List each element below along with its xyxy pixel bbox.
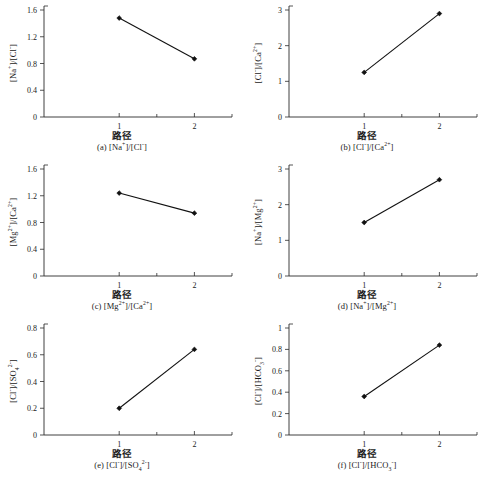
data-line-f: [364, 345, 439, 396]
plot-area-c: 00.40.81.21.612: [0, 159, 244, 299]
y-tick-label-a-0: 0: [33, 113, 37, 122]
y-tick-label-f-3: 0.6: [272, 367, 282, 376]
x-axis-label-c: 路径: [0, 287, 244, 301]
y-axis-label-wrap-e: [Cl-]/[SO42-]: [4, 326, 18, 436]
y-tick-label-f-2: 0.4: [272, 388, 282, 397]
data-point-a-0: [117, 16, 122, 21]
subplot-caption-e: (e) [Cl-]/[SO42-]: [0, 460, 244, 470]
data-point-c-1: [192, 211, 197, 216]
x-axis-label-f: 路径: [245, 446, 489, 460]
subplot-caption-c: (c) [Mg2+]/[Ca2+]: [0, 301, 244, 311]
subplot-c: 00.40.81.21.612[Mg2+]/[Ca2+]路径(c) [Mg2+]…: [0, 159, 244, 318]
y-axis-label-d: [Na+]/[Mg2+]: [251, 167, 265, 277]
y-tick-label-d-2: 2: [278, 201, 282, 210]
y-axis-label-e: [Cl-]/[SO42-]: [6, 326, 20, 436]
x-axis-label-a: 路径: [0, 128, 244, 142]
data-point-d-0: [362, 220, 367, 225]
subplot-caption-b: (b) [Cl-]/[Ca2+]: [245, 142, 489, 152]
y-tick-label-d-1: 1: [278, 236, 282, 245]
data-point-a-1: [192, 56, 197, 61]
y-tick-label-d-0: 0: [278, 272, 282, 281]
plot-area-e: 00.20.40.60.812: [0, 318, 244, 458]
y-axis-label-b: [Cl-]/[Ca2+]: [251, 8, 265, 118]
y-axis-label-wrap-c: [Mg2+]/[Ca2+]: [4, 167, 18, 277]
y-tick-label-c-3: 1.2: [27, 192, 37, 201]
y-tick-label-b-3: 3: [278, 6, 282, 15]
y-axis-label-wrap-b: [Cl-]/[Ca2+]: [249, 8, 263, 118]
y-tick-label-c-2: 0.8: [27, 219, 37, 228]
data-point-d-1: [437, 177, 442, 182]
subplot-caption-a: (a) [Na+]/[Cl-]: [0, 142, 244, 152]
y-tick-label-f-1: 0.2: [272, 410, 282, 419]
y-tick-label-a-2: 0.8: [27, 60, 37, 69]
y-tick-label-e-1: 0.2: [27, 404, 37, 413]
y-tick-label-e-3: 0.6: [27, 351, 37, 360]
y-tick-label-c-1: 0.4: [27, 245, 37, 254]
y-axis-label-wrap-f: [Cl-]/[HCO3-]: [249, 326, 263, 436]
data-line-c: [119, 193, 194, 213]
x-axis-label-d: 路径: [245, 287, 489, 301]
x-axis-label-b: 路径: [245, 128, 489, 142]
y-axis-label-a: [Na+]/[Cl-]: [6, 8, 20, 118]
subplot-a: 00.40.81.21.612[Na+]/[Cl-]路径(a) [Na+]/[C…: [0, 0, 244, 159]
y-tick-label-a-4: 1.6: [27, 6, 37, 15]
y-tick-label-e-0: 0: [33, 431, 37, 440]
plot-area-a: 00.40.81.21.612: [0, 0, 244, 140]
data-point-c-0: [117, 191, 122, 196]
subplot-d: 012312[Na+]/[Mg2+]路径(d) [Na+]/[Mg2+]: [245, 159, 489, 318]
y-tick-label-e-4: 0.8: [27, 324, 37, 333]
y-tick-label-c-4: 1.6: [27, 165, 37, 174]
figure-six-panel-ion-ratios: 00.40.81.21.612[Na+]/[Cl-]路径(a) [Na+]/[C…: [0, 0, 489, 478]
plot-area-d: 012312: [245, 159, 489, 299]
y-tick-label-e-2: 0.4: [27, 378, 37, 387]
y-tick-label-f-4: 0.8: [272, 345, 282, 354]
subplot-caption-f: (f) [Cl-]/[HCO3-]: [245, 460, 489, 470]
y-axis-label-c: [Mg2+]/[Ca2+]: [6, 167, 20, 277]
subplot-caption-d: (d) [Na+]/[Mg2+]: [245, 301, 489, 311]
y-tick-label-b-2: 2: [278, 42, 282, 51]
y-axis-label-wrap-d: [Na+]/[Mg2+]: [249, 167, 263, 277]
data-line-b: [364, 14, 439, 73]
plot-area-f: 00.20.40.60.8112: [245, 318, 489, 458]
y-tick-label-c-0: 0: [33, 272, 37, 281]
y-tick-label-a-3: 1.2: [27, 33, 37, 42]
subplot-e: 00.20.40.60.812[Cl-]/[SO42-]路径(e) [Cl-]/…: [0, 318, 244, 477]
data-line-d: [364, 180, 439, 223]
plot-area-b: 012312: [245, 0, 489, 140]
y-axis-label-wrap-a: [Na+]/[Cl-]: [4, 8, 18, 118]
y-tick-label-f-0: 0: [278, 431, 282, 440]
y-axis-label-f: [Cl-]/[HCO3-]: [251, 326, 265, 436]
y-tick-label-a-1: 0.4: [27, 86, 37, 95]
y-tick-label-b-0: 0: [278, 113, 282, 122]
subplot-b: 012312[Cl-]/[Ca2+]路径(b) [Cl-]/[Ca2+]: [245, 0, 489, 159]
subplot-f: 00.20.40.60.8112[Cl-]/[HCO3-]路径(f) [Cl-]…: [245, 318, 489, 477]
data-line-e: [119, 349, 194, 408]
y-tick-label-f-5: 1: [278, 324, 282, 333]
y-tick-label-d-3: 3: [278, 165, 282, 174]
data-line-a: [119, 18, 194, 59]
x-axis-label-e: 路径: [0, 446, 244, 460]
y-tick-label-b-1: 1: [278, 77, 282, 86]
